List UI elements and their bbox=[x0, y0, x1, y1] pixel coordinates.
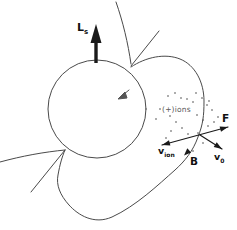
ion-dot bbox=[170, 130, 172, 132]
ion-dot bbox=[155, 118, 157, 120]
ion-dot bbox=[165, 137, 167, 139]
ion-dot bbox=[217, 116, 219, 118]
ion-dot bbox=[213, 121, 215, 123]
v-ion-label: vion bbox=[158, 145, 175, 158]
small-dart-glyph-icon bbox=[118, 92, 127, 99]
ion-dot bbox=[187, 133, 189, 135]
ion-dot bbox=[207, 125, 209, 127]
ion-dot bbox=[206, 104, 208, 106]
ion-dot bbox=[202, 119, 204, 121]
ion-dot bbox=[167, 95, 169, 97]
ion-dot bbox=[202, 142, 204, 144]
force-velocity-vector-line bbox=[162, 127, 228, 145]
v0-label: v0 bbox=[214, 151, 224, 164]
field-line-top-ray bbox=[131, 31, 159, 66]
ions-region-label: (+)ions bbox=[162, 105, 191, 114]
v0-arrowhead-icon bbox=[214, 142, 222, 149]
ion-dot bbox=[197, 132, 199, 134]
field-line-left-ray bbox=[31, 150, 65, 192]
ion-dot bbox=[181, 127, 183, 129]
ion-dot bbox=[192, 101, 194, 103]
ion-dot bbox=[169, 115, 171, 117]
field-line-left-curve bbox=[0, 150, 65, 162]
ion-dot bbox=[174, 92, 176, 94]
spin-axis-label: Ls bbox=[77, 21, 88, 36]
spin-axis-arrowhead-icon bbox=[91, 24, 102, 43]
ion-dot bbox=[201, 97, 203, 99]
figure-canvas: Ls F vion v0 B (+)ions bbox=[0, 0, 237, 230]
ion-dot bbox=[159, 108, 161, 110]
ion-dot bbox=[175, 121, 177, 123]
ion-dot bbox=[211, 109, 213, 111]
ion-dot bbox=[208, 100, 210, 102]
ion-dot bbox=[192, 150, 194, 152]
field-line-loop bbox=[57, 56, 204, 220]
ion-dot bbox=[195, 92, 197, 94]
ion-dot bbox=[186, 98, 188, 100]
ion-dots bbox=[155, 92, 219, 152]
force-arrowhead-icon bbox=[220, 126, 228, 131]
b-field-label: B bbox=[190, 155, 198, 167]
force-label: F bbox=[222, 112, 229, 124]
ion-dot bbox=[180, 97, 182, 99]
planet-sphere bbox=[48, 60, 146, 158]
diagram-svg: Ls F vion v0 B (+)ions bbox=[0, 0, 237, 230]
ion-dot bbox=[196, 114, 198, 116]
field-line-top-curve bbox=[116, 2, 131, 64]
